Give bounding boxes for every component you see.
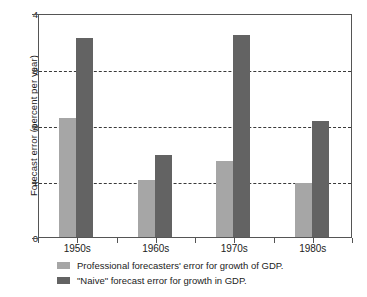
bar-1950s-series0 [59, 118, 76, 237]
bar-1970s-series1 [233, 35, 250, 237]
bar-chart-figure: Forecast error (percent per year) 01234 … [0, 0, 367, 297]
x-tick-mark-0 [38, 238, 39, 243]
bar-1980s-series1 [312, 121, 329, 237]
x-tick-label-1980s: 1980s [283, 243, 343, 254]
chart-legend: Professional forecasters' error for grow… [57, 258, 357, 288]
x-tick-mark-2 [117, 238, 118, 243]
bar-1970s-series0 [216, 161, 233, 237]
x-tick-mark-4 [195, 238, 196, 243]
legend-label-1: "Naive" forecast error for growth in GDP… [77, 275, 247, 286]
legend-item-0: Professional forecasters' error for grow… [57, 258, 357, 273]
legend-swatch-0 [57, 262, 70, 269]
x-tick-mark-6 [274, 238, 275, 243]
legend-item-1: "Naive" forecast error for growth in GDP… [57, 273, 357, 288]
plot-area [38, 14, 352, 238]
bar-1960s-series0 [138, 180, 155, 237]
x-tick-label-1950s: 1950s [47, 243, 107, 254]
bar-1980s-series0 [295, 183, 312, 237]
legend-label-0: Professional forecasters' error for grow… [77, 260, 284, 271]
x-tick-label-1970s: 1970s [204, 243, 264, 254]
y-axis-tick-marks [0, 0, 40, 297]
x-tick-mark-8 [352, 238, 353, 243]
x-tick-label-1960s: 1960s [126, 243, 186, 254]
legend-swatch-1 [57, 277, 70, 284]
bar-1960s-series1 [155, 155, 172, 237]
bar-1950s-series1 [76, 38, 93, 237]
